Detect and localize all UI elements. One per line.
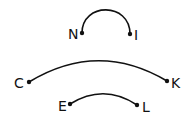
arc-diagram: N I C K E L bbox=[0, 0, 189, 122]
node-dot-n bbox=[80, 31, 84, 35]
node-dot-k bbox=[165, 79, 169, 83]
arc-e-l bbox=[70, 94, 137, 105]
node-dot-c bbox=[27, 80, 31, 84]
node-dot-i bbox=[128, 32, 132, 36]
node-label-l: L bbox=[142, 99, 150, 115]
arc-c-k bbox=[29, 61, 167, 82]
node-label-i: I bbox=[134, 27, 138, 43]
node-dot-e bbox=[68, 102, 72, 106]
node-label-e: E bbox=[58, 98, 67, 114]
node-label-c: C bbox=[14, 75, 24, 91]
node-label-k: K bbox=[171, 75, 181, 91]
arc-n-i bbox=[82, 10, 130, 34]
node-label-n: N bbox=[68, 26, 78, 42]
node-dot-l bbox=[135, 103, 139, 107]
